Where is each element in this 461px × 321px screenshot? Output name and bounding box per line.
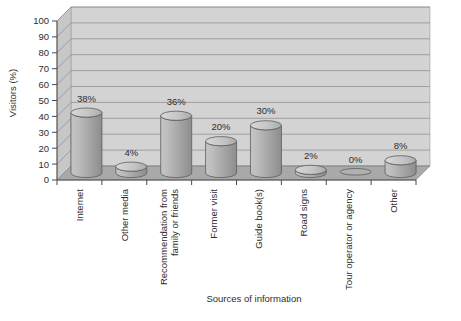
- category-label-line: Recommendation from: [158, 189, 169, 285]
- cylinder-flat-zero: [340, 168, 371, 175]
- cylinder-body: [71, 113, 102, 178]
- y-tick-label: 30: [38, 127, 49, 138]
- category-label: Tour operator or agency: [343, 189, 354, 290]
- bar-cylinder: [340, 168, 371, 175]
- category-label-line: Guide book(s): [253, 189, 264, 249]
- category-label: Internet: [74, 189, 85, 222]
- cylinder-top-cap: [161, 111, 192, 120]
- bar-cylinder: [71, 108, 102, 178]
- cylinder-top-cap: [295, 165, 326, 174]
- data-label: 38%: [77, 93, 97, 104]
- y-tick-label: 60: [38, 79, 49, 90]
- y-tick-label: 50: [38, 95, 49, 106]
- data-label: 0%: [349, 154, 363, 165]
- y-tick-label: 40: [38, 111, 49, 122]
- floor-slab: [57, 166, 430, 180]
- category-label-line: Other: [388, 189, 399, 213]
- cylinder-top-cap: [385, 156, 416, 165]
- y-tick-label: 100: [33, 15, 49, 26]
- bar-cylinder: [250, 121, 281, 178]
- category-label: Guide book(s): [253, 189, 264, 249]
- data-label: 20%: [212, 121, 232, 132]
- bar-cylinder: [295, 165, 326, 177]
- y-axis-title: Visitors (%): [7, 69, 18, 117]
- data-label: 2%: [304, 150, 318, 161]
- bar-cylinder: [206, 137, 237, 178]
- bar-cylinder: [385, 156, 416, 178]
- data-label: 8%: [394, 140, 408, 151]
- visitors-by-source-3d-bar-chart: 0102030405060708090100 38%4%36%20%30%2%0…: [0, 0, 461, 321]
- y-tick-label: 0: [44, 174, 49, 185]
- category-label: Road signs: [298, 189, 309, 237]
- chart-container: 0102030405060708090100 38%4%36%20%30%2%0…: [0, 0, 461, 321]
- cylinder-body: [206, 141, 237, 177]
- bar-cylinder: [116, 162, 147, 178]
- cylinder-top-cap: [206, 137, 237, 146]
- category-label-line: Tour operator or agency: [343, 189, 354, 290]
- cylinder-body: [161, 116, 192, 178]
- category-label-line: Internet: [74, 189, 85, 222]
- cylinder-top-cap: [250, 121, 281, 130]
- bar-cylinder: [161, 111, 192, 177]
- cylinder-top-cap: [71, 108, 102, 117]
- category-label: Former visit: [208, 189, 219, 239]
- data-label: 30%: [256, 105, 276, 116]
- category-label-line: family or friends: [169, 189, 180, 256]
- cylinder-top-cap: [116, 162, 147, 171]
- category-label: Other media: [119, 188, 130, 241]
- data-label: 4%: [124, 147, 138, 158]
- y-tick-label: 20: [38, 143, 49, 154]
- plot-area-3d: [57, 7, 430, 180]
- category-label-line: Road signs: [298, 189, 309, 237]
- x-axis-title: Sources of information: [206, 293, 301, 304]
- y-tick-label: 80: [38, 47, 49, 58]
- y-tick-label: 10: [38, 159, 49, 170]
- category-label: Other: [388, 189, 399, 213]
- category-label-line: Other media: [119, 188, 130, 241]
- y-tick-label: 70: [38, 63, 49, 74]
- data-label: 36%: [167, 96, 187, 107]
- y-tick-label: 90: [38, 31, 49, 42]
- category-label-line: Former visit: [208, 189, 219, 239]
- cylinder-body: [250, 125, 281, 177]
